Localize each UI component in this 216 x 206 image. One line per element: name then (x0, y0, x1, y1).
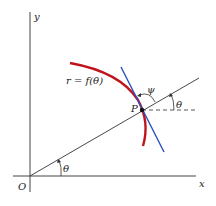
polar-tangent-diagram: y x O r = f(θ) P ψ θ θ (0, 0, 216, 206)
radial-line (30, 78, 199, 176)
psi-label: ψ (147, 84, 155, 95)
theta-label-o: θ (63, 163, 69, 174)
point-p (140, 108, 144, 112)
x-axis-label: x (199, 178, 205, 189)
point-label: P (130, 103, 138, 114)
y-axis-label: y (33, 11, 40, 22)
curve-label: r = f(θ) (66, 75, 103, 86)
psi-arrowhead (137, 93, 141, 97)
origin-label: O (18, 181, 26, 192)
theta-label-p: θ (176, 99, 182, 110)
theta-angle-arc-p (171, 94, 174, 110)
psi-angle-arc (139, 94, 155, 102)
